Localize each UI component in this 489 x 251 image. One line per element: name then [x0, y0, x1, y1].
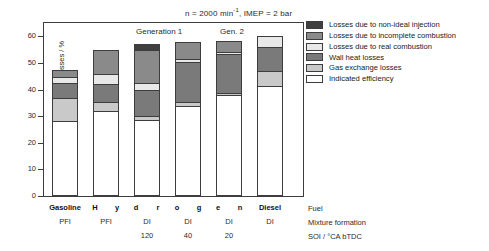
legend-swatch-icon	[306, 53, 323, 61]
bar-segment-wall-heat-losses	[257, 47, 283, 71]
legend-item-label: Losses due to incomplete combustion	[329, 32, 456, 40]
legend-item-label: Wall heat losses	[329, 54, 384, 62]
bar-gasoline-pfi[interactable]	[52, 70, 78, 196]
annotation-generation-1: Generation 1	[136, 27, 182, 36]
bar-hydrogen-di-120[interactable]	[134, 44, 160, 196]
row-label-fuel: Fuel	[308, 204, 323, 213]
legend-item[interactable]: Indicated efficiency	[306, 74, 486, 84]
chart-legend: Losses due to non-ideal injectionLosses …	[306, 20, 486, 85]
legend-item-label: Gas exchange losses	[329, 64, 402, 72]
bar-segment-losses-due-to-real-combustion	[93, 74, 119, 85]
y-axis-tick-label: 50	[18, 59, 36, 67]
chart-title: n = 2000 min-1, IMEP = 2 bar	[185, 7, 292, 18]
chart-title-pre: n = 2000 min	[185, 9, 233, 18]
bar-segment-wall-heat-losses	[93, 84, 119, 101]
chart-page: n = 2000 min-1, IMEP = 2 bar Efficiency …	[0, 0, 489, 251]
bar-segment-losses-due-to-incomplete-combustion	[134, 50, 160, 83]
bar-hydrogen-di-40[interactable]	[175, 42, 201, 196]
bar-segment-indicated-efficiency	[134, 120, 160, 196]
plot-area: Efficiency and Losses / % 0102030405060 …	[43, 22, 304, 197]
row-label-mixture-formation: Mixture formation	[308, 218, 366, 227]
legend-item[interactable]: Losses due to real combustion	[306, 42, 486, 52]
legend-swatch-icon	[306, 21, 323, 29]
bar-segment-gas-exchange-losses	[257, 71, 283, 86]
bar-diesel-di[interactable]	[257, 36, 283, 196]
bar-hydrogen-di-20[interactable]	[216, 41, 242, 196]
legend-swatch-icon	[306, 64, 323, 72]
bar-segment-indicated-efficiency	[216, 95, 242, 196]
annotation-generation-2: Gen. 2	[220, 27, 244, 36]
bar-segment-losses-due-to-incomplete-combustion	[93, 50, 119, 74]
legend-item[interactable]: Gas exchange losses	[306, 63, 486, 73]
legend-swatch-icon	[306, 43, 323, 51]
y-axis-tick-label: 40	[18, 86, 36, 94]
bar-segment-indicated-efficiency	[52, 121, 78, 196]
bar-segment-wall-heat-losses	[175, 62, 201, 102]
x-label-fuel-9: Diesel	[240, 203, 300, 212]
bar-segment-losses-due-to-real-combustion	[257, 36, 283, 47]
legend-item[interactable]: Losses due to non-ideal injection	[306, 20, 486, 30]
bar-segment-losses-due-to-real-combustion	[134, 83, 160, 90]
y-axis-tick-label: 30	[18, 112, 36, 120]
y-axis-tick-label: 10	[18, 165, 36, 173]
y-axis-tick-label: 20	[18, 139, 36, 147]
legend-item[interactable]: Losses due to incomplete combustion	[306, 31, 486, 41]
bar-segment-indicated-efficiency	[175, 106, 201, 196]
bar-segment-gas-exchange-losses	[52, 98, 78, 121]
bar-segment-gas-exchange-losses	[93, 102, 119, 111]
bar-segment-indicated-efficiency	[257, 86, 283, 196]
bar-segment-wall-heat-losses	[134, 90, 160, 117]
legend-item-label: Losses due to real combustion	[329, 43, 432, 51]
x-axis-label-table: Fuel Mixture formation SOI / °CA bTDC Ga…	[0, 200, 489, 251]
x-label-soi-4: 20	[199, 231, 259, 240]
chart-title-post: , IMEP = 2 bar	[239, 9, 292, 18]
bar-segment-wall-heat-losses	[216, 54, 242, 93]
legend-item[interactable]: Wall heat losses	[306, 52, 486, 62]
bar-series-container	[44, 23, 303, 196]
y-axis-tick-label: 60	[18, 32, 36, 40]
legend-swatch-icon	[306, 75, 323, 83]
legend-item-label: Indicated efficiency	[329, 75, 393, 83]
bar-segment-wall-heat-losses	[52, 83, 78, 98]
y-axis-tick	[38, 196, 44, 197]
legend-swatch-icon	[306, 32, 323, 40]
y-axis-tick-label: 0	[18, 192, 36, 200]
bar-segment-losses-due-to-incomplete-combustion	[175, 42, 201, 59]
legend-item-label: Losses due to non-ideal injection	[329, 21, 440, 29]
bar-segment-losses-due-to-incomplete-combustion	[216, 41, 242, 52]
row-label-soi: SOI / °CA bTDC	[308, 232, 362, 241]
bar-segment-indicated-efficiency	[93, 111, 119, 196]
x-label-mixture-5: DI	[240, 217, 300, 226]
bar-hydrogen-pfi[interactable]	[93, 50, 119, 196]
